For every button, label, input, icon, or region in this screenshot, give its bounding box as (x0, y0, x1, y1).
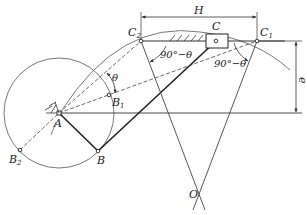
label-b2: B2 (8, 153, 22, 167)
slider-pin (214, 39, 218, 43)
label-a: A (53, 117, 62, 130)
label-c1: C1 (260, 26, 273, 40)
label-c: C (212, 20, 221, 33)
joint-b (96, 149, 100, 153)
joint-b2 (18, 148, 22, 152)
label-o: O (189, 188, 198, 201)
label-c2: C2 (128, 26, 141, 40)
label-theta: θ (112, 72, 118, 83)
label-angle-right: 90°−θ (214, 58, 246, 69)
guide-hatching (170, 35, 203, 41)
joint-b1 (107, 93, 111, 97)
mechanism-diagram: H e C C1 C2 A B B1 B2 O θ 90°−θ 90°−θ (0, 0, 307, 215)
line-c2-o (141, 41, 205, 210)
crank-ab (59, 113, 98, 151)
dashed-a-c1 (59, 41, 257, 113)
label-h: H (193, 4, 204, 17)
label-b: B (96, 154, 105, 167)
dashed-a-c2 (59, 41, 141, 113)
label-angle-left: 90°−θ (160, 49, 192, 60)
label-e: e (296, 77, 307, 84)
label-b1: B1 (111, 96, 125, 110)
